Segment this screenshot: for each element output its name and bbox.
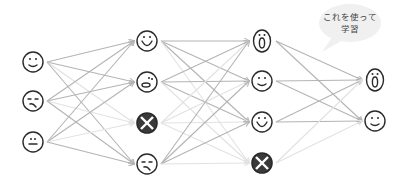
node-sad-face: [137, 154, 157, 174]
connection-edge: [276, 80, 362, 122]
smile-face-icon: [23, 52, 43, 72]
connection-edge: [47, 41, 134, 62]
node-neutral-face: [23, 132, 43, 152]
sad-face-icon: [137, 154, 157, 174]
connections: [47, 41, 362, 164]
smile-face-icon: [365, 111, 385, 131]
connection-edge: [161, 122, 249, 164]
big-smile-face-icon: [252, 112, 272, 132]
connection-edge: [276, 41, 362, 80]
node-smile-face: [252, 71, 272, 91]
x-mark-icon: [252, 153, 272, 173]
node-surprised-face: [367, 69, 384, 91]
neutral-face-icon: [23, 132, 43, 152]
node-big-smile-face: [252, 112, 272, 132]
big-smile-face-icon: [137, 31, 157, 51]
neural-network-diagram: これを使って 学習: [0, 0, 409, 190]
sad-face-icon: [23, 91, 43, 111]
surprised-face-icon: [367, 69, 384, 91]
connection-edge: [47, 62, 134, 82]
node-smile-face: [365, 111, 385, 131]
connection-edge: [161, 163, 249, 164]
node-big-smile-face: [137, 31, 157, 51]
node-smile-face: [23, 52, 43, 72]
worried-face-icon: [137, 72, 157, 92]
surprised-face-icon: [254, 30, 271, 52]
dropped-node: [137, 113, 157, 133]
node-sad-face: [23, 91, 43, 111]
x-mark-icon: [137, 113, 157, 133]
smile-face-icon: [252, 71, 272, 91]
node-surprised-face: [254, 30, 271, 52]
connection-edge: [276, 80, 362, 81]
bubble-text-line1: これを使って: [323, 12, 377, 22]
dropped-node: [252, 153, 272, 173]
connection-edge: [47, 142, 134, 164]
connection-edge: [47, 62, 134, 164]
connection-edge: [276, 121, 362, 163]
bubble-text-line2: 学習: [341, 24, 359, 34]
speech-bubble: これを使って 学習: [319, 4, 381, 52]
node-worried-face: [137, 72, 157, 92]
